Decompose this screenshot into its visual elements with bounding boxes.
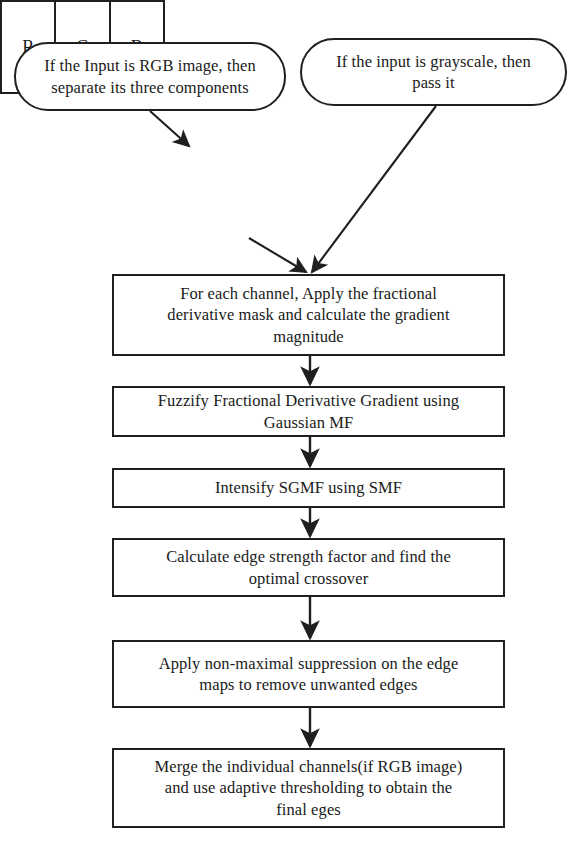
process-fuzzify-gaussian-mf[interactable]: Fuzzify Fractional Derivative Gradient u… xyxy=(112,386,505,437)
terminator-grayscale-input-label: If the input is grayscale, then pass it xyxy=(312,51,555,94)
process-fractional-derivative-gradient-label: For each channel, Apply the fractional d… xyxy=(122,283,495,347)
process-merge-and-threshold-label: Merge the individual channels(if RGB ima… xyxy=(122,756,495,820)
process-non-maximal-suppression-label: Apply non-maximal suppression on the edg… xyxy=(122,653,495,696)
process-edge-strength-crossover[interactable]: Calculate edge strength factor and find … xyxy=(112,538,505,597)
terminator-rgb-input[interactable]: If the Input is RGB image, then separate… xyxy=(14,42,286,111)
terminator-grayscale-input[interactable]: If the input is grayscale, then pass it xyxy=(300,38,567,106)
process-merge-and-threshold[interactable]: Merge the individual channels(if RGB ima… xyxy=(112,748,505,828)
process-intensify-sgmf-label: Intensify SGMF using SMF xyxy=(122,477,495,498)
terminator-rgb-input-label: If the Input is RGB image, then separate… xyxy=(26,55,274,98)
flowchart-canvas: If the Input is RGB image, then separate… xyxy=(0,0,577,858)
process-fuzzify-gaussian-mf-label: Fuzzify Fractional Derivative Gradient u… xyxy=(122,390,495,433)
process-intensify-sgmf[interactable]: Intensify SGMF using SMF xyxy=(112,468,505,508)
process-edge-strength-crossover-label: Calculate edge strength factor and find … xyxy=(122,546,495,589)
process-fractional-derivative-gradient[interactable]: For each channel, Apply the fractional d… xyxy=(112,274,505,356)
connector-rgb-terminator-to-channel-box xyxy=(150,111,189,146)
connector-grayscale-terminator-to-proc-1 xyxy=(312,106,436,272)
process-non-maximal-suppression[interactable]: Apply non-maximal suppression on the edg… xyxy=(112,640,505,708)
connector-channel-box-to-proc-1 xyxy=(249,238,306,272)
